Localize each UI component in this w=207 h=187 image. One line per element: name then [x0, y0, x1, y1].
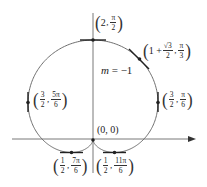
label-bottom-left-point: ( 12, 7π6 ) — [53, 157, 87, 174]
point-bottom-right — [113, 151, 117, 155]
numerator: 3 — [40, 91, 46, 100]
numerator: 3 — [169, 91, 175, 100]
fraction: 32 — [169, 91, 175, 108]
fraction: π3 — [178, 42, 184, 59]
fraction: 11π6 — [114, 157, 127, 174]
slope-label: m = −1 — [101, 64, 132, 76]
denominator: 6 — [54, 100, 58, 108]
x-axis-arrow-icon — [188, 136, 196, 142]
point-right — [156, 101, 160, 105]
fraction: √32 — [163, 42, 173, 59]
denominator: 2 — [104, 166, 108, 174]
denominator: 6 — [119, 166, 123, 174]
point-top — [91, 38, 95, 42]
label-right-point: ( 32, π6 ) — [162, 91, 193, 108]
numerator: π — [178, 42, 184, 51]
numerator: π — [180, 91, 186, 100]
numerator: 1 — [103, 157, 109, 166]
label-left-point: ( 32, 5π6 ) — [33, 91, 67, 108]
label-origin: (0, 0) — [97, 125, 119, 135]
fraction: π2 — [110, 14, 116, 31]
denominator: 6 — [74, 166, 78, 174]
denominator: 2 — [170, 100, 174, 108]
slope-value: = −1 — [109, 64, 132, 76]
point-bottom-left — [70, 151, 74, 155]
label-upper-right-point: ( 1 + √32, π3 ) — [143, 42, 191, 59]
label-bottom-right-point: ( 12, 11π6 ) — [96, 157, 134, 174]
denominator: 3 — [179, 51, 183, 59]
cardioid-figure: ( 2, π2 ) ( 1 + √32, π3 ) m = −1 ( 32, π… — [0, 0, 207, 187]
denominator: 2 — [61, 166, 65, 174]
denominator: 2 — [41, 100, 45, 108]
origin-text: (0, 0) — [97, 125, 119, 135]
fraction: 12 — [60, 157, 66, 174]
fraction: 12 — [103, 157, 109, 174]
label-r: 2 — [101, 18, 106, 28]
point-origin — [91, 138, 95, 142]
denominator: 2 — [111, 23, 115, 31]
label-top-point: ( 2, π2 ) — [95, 14, 123, 31]
fraction: 32 — [40, 91, 46, 108]
fraction: 5π6 — [51, 91, 61, 108]
numerator: π — [110, 14, 116, 23]
numerator: 1 — [60, 157, 66, 166]
point-upper-right — [138, 57, 142, 61]
numerator: 7π — [71, 157, 81, 166]
numerator: √3 — [163, 42, 173, 51]
label-r-int: 1 + — [149, 46, 162, 56]
fraction: π6 — [180, 91, 186, 108]
slope-var: m — [101, 64, 109, 76]
fraction: 7π6 — [71, 157, 81, 174]
denominator: 6 — [181, 100, 185, 108]
numerator: 11π — [114, 157, 127, 166]
denominator: 2 — [166, 51, 170, 59]
point-left — [26, 101, 30, 105]
numerator: 5π — [51, 91, 61, 100]
